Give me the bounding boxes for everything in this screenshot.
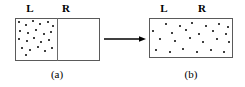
panel-b-left-chamber-label: L <box>157 3 171 14</box>
panel-b-right-chamber-label: R <box>195 3 209 14</box>
process-arrow-icon <box>104 36 146 42</box>
free-expansion-figure: L R (a) L R (b) <box>0 0 245 87</box>
panel-b-container <box>149 18 233 58</box>
panel-a-left-chamber-label: L <box>23 3 37 14</box>
panel-a-partition-divider <box>57 18 58 61</box>
panel-a-right-chamber-label: R <box>59 3 73 14</box>
panel-b-caption: (b) <box>176 68 206 80</box>
panel-a-caption: (a) <box>42 68 72 80</box>
